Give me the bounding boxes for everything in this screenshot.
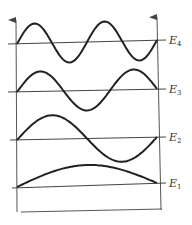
label-e1: E1 <box>168 177 182 191</box>
label-e4: E4 <box>168 34 182 48</box>
baseline-e1 <box>12 183 166 188</box>
label-e3: E3 <box>168 83 182 97</box>
baseline-e3 <box>8 89 166 92</box>
wave-e4 <box>17 22 157 63</box>
wave-e2 <box>17 115 157 162</box>
left-wall-axis <box>16 20 17 212</box>
bottom-line <box>21 209 162 212</box>
energy-level-diagram: E4 E3 E2 E1 <box>0 0 192 225</box>
label-e2: E2 <box>168 131 182 145</box>
right-wall-axis <box>157 17 161 210</box>
